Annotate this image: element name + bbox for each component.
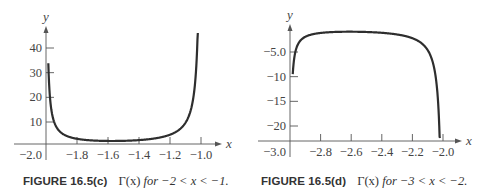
figure-number-c: FIGURE 16.5(c) [23, 175, 107, 187]
x-axis-arrow-icon [455, 139, 462, 144]
y-tick-label: 10 [30, 115, 43, 129]
y-axis-label: y [41, 9, 49, 24]
y-tick-label: −20 [266, 119, 286, 133]
figure-caption-c: FIGURE 16.5(c) Γ(x) for −2 < x < −1. [23, 174, 229, 189]
y-tick-label: −10 [266, 70, 286, 84]
x-tick-label: −1.8 [66, 148, 89, 162]
caption-range-c: for −2 < x < −1. [144, 174, 229, 188]
y-tick-label: 40 [30, 41, 43, 55]
figure-gamma-c: xy10203040−2.0−1.8−1.6−1.4−1.2−1.0 FIGUR… [0, 0, 250, 196]
x-tick-label: −1.4 [128, 148, 151, 162]
x-tick-label: −2.8 [309, 145, 332, 159]
y-axis-label: y [285, 7, 293, 22]
y-axis-arrow-icon [44, 26, 49, 33]
chart-gamma-c: xy10203040−2.0−1.8−1.6−1.4−1.2−1.0 [0, 0, 250, 170]
caption-function-c: Γ(x) [119, 174, 141, 188]
caption-range-d: for −3 < x < −2. [382, 174, 467, 188]
caption-function-d: Γ(x) [357, 174, 379, 188]
x-tick-label: −1.2 [159, 148, 182, 162]
x-tick-label: −2.0 [432, 145, 455, 159]
y-axis-arrow-icon [288, 24, 293, 31]
x-axis-arrow-icon [215, 142, 222, 147]
figure-number-d: FIGURE 16.5(d) [261, 175, 346, 187]
x-tick-label: −2.6 [340, 145, 363, 159]
y-tick-label: 30 [30, 66, 43, 80]
y-tick-label: −5.0 [263, 45, 286, 59]
x-axis-label: x [225, 136, 232, 151]
x-tick-label: −1.0 [190, 148, 213, 162]
chart-gamma-d: xy−5.0−10−15−20−3.0−2.8−2.6−2.4−2.2−2.0 [250, 0, 499, 170]
y-tick-label: −15 [266, 94, 286, 108]
y-tick-label: 20 [30, 90, 43, 104]
x-axis-label: x [465, 133, 472, 148]
x-tick-label: −3.0 [263, 145, 286, 159]
x-tick-label: −2.4 [370, 145, 393, 159]
gamma-curve [48, 33, 198, 141]
x-tick-label: −1.6 [97, 148, 120, 162]
figure-gamma-d: xy−5.0−10−15−20−3.0−2.8−2.6−2.4−2.2−2.0 … [250, 0, 499, 196]
x-tick-label: −2.0 [19, 148, 42, 162]
x-tick-label: −2.2 [401, 145, 424, 159]
figure-caption-d: FIGURE 16.5(d) Γ(x) for −3 < x < −2. [261, 174, 467, 189]
gamma-curve [293, 32, 440, 138]
